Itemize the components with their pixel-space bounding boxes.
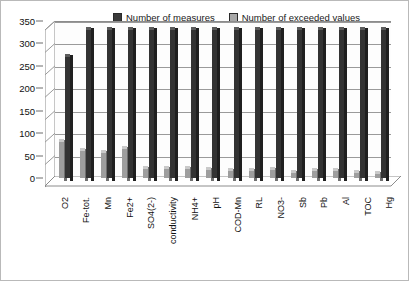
y-axis: 350300250200150100500 <box>1 1 47 281</box>
bar-number-of-measures <box>318 27 323 178</box>
bar-number-of-measures <box>381 27 386 178</box>
bar-group <box>159 21 180 178</box>
bar-group <box>244 21 265 178</box>
bar-exceeded-values <box>354 170 359 178</box>
x-axis-tick-label: SO4(2-) <box>146 197 156 229</box>
y-axis-tick-mark <box>36 21 43 22</box>
x-axis-tick-label: COD-Mn <box>233 197 243 233</box>
bar-exceeded-values <box>185 166 190 178</box>
bar-exceeded-values <box>291 170 296 178</box>
bar-exceeded-values <box>80 148 85 178</box>
bar-number-of-measures <box>107 27 112 178</box>
bar-exceeded-values <box>122 146 127 178</box>
x-axis-tick-label: Pb <box>319 197 329 208</box>
bar-exceeded-values <box>312 168 317 178</box>
bar-number-of-measures <box>170 27 175 178</box>
bar-number-of-measures <box>149 27 154 178</box>
bar-group <box>307 21 328 178</box>
x-axis-tick-label: conductivity <box>168 197 178 244</box>
x-axis-label-cell: Pb <box>314 197 336 281</box>
x-axis-tick-label: NO3- <box>276 197 286 219</box>
y-axis-tick-label: 350 <box>19 16 35 27</box>
bar-number-of-measures <box>255 27 260 178</box>
x-axis-label-cell: conductivity <box>162 197 184 281</box>
y-axis-tick-label: 250 <box>19 60 35 71</box>
y-axis-tick-label: 100 <box>19 128 35 139</box>
y-axis-tick-mark <box>36 43 43 44</box>
y-axis-tick-label: 50 <box>24 150 35 161</box>
bar-group <box>370 21 391 178</box>
x-axis-label-cell: NO3- <box>270 197 292 281</box>
bar-series-group <box>54 21 391 178</box>
bar-number-of-measures <box>191 27 196 178</box>
bar-exceeded-values <box>143 166 148 178</box>
x-axis-labels: O2Fe-tot.MnFe2+SO4(2-)conductivityNH4+pH… <box>54 197 400 281</box>
bar-group <box>96 21 117 178</box>
x-axis-tick-label: TOC <box>363 197 373 216</box>
x-axis-tick-label: Hg <box>384 197 394 209</box>
x-axis-tick-label: Fe2+ <box>125 197 135 218</box>
bar-exceeded-values <box>375 171 380 178</box>
y-axis-tick-label: 150 <box>19 105 35 116</box>
x-axis-tick-label: Al <box>341 197 351 205</box>
x-axis-label-cell: Al <box>335 197 357 281</box>
bar-exceeded-values <box>101 150 106 178</box>
y-axis-tick-mark <box>36 65 43 66</box>
x-axis-label-cell: Sb <box>292 197 314 281</box>
x-axis-tick-label: Fe-tot. <box>81 197 91 223</box>
x-axis-tick-label: O2 <box>60 197 70 209</box>
bar-group <box>138 21 159 178</box>
bar-number-of-measures <box>339 27 344 178</box>
bar-number-of-measures <box>276 27 281 178</box>
bar-chart: Number of measures Number of exceeded va… <box>0 0 409 281</box>
bar-group <box>223 21 244 178</box>
x-axis-label-cell: O2 <box>54 197 76 281</box>
x-axis-label-cell: TOC <box>357 197 379 281</box>
bar-number-of-measures <box>86 27 91 178</box>
x-axis-label-cell: Fe-tot. <box>76 197 98 281</box>
y-axis-tick-mark <box>36 88 43 89</box>
x-axis-label-cell: COD-Mn <box>227 197 249 281</box>
bar-exceeded-values <box>270 167 275 178</box>
x-axis-label-cell: Hg <box>378 197 400 281</box>
bar-number-of-measures <box>360 27 365 178</box>
y-axis-tick-mark <box>36 155 43 156</box>
bar-exceeded-values <box>249 168 254 178</box>
y-axis-tick-mark <box>36 133 43 134</box>
bar-exceeded-values <box>333 168 338 178</box>
bar-number-of-measures <box>234 27 239 178</box>
x-axis-label-cell: RL <box>249 197 271 281</box>
bar-exceeded-values <box>59 139 64 178</box>
x-axis-tick-label: NH4+ <box>190 197 200 220</box>
bar-exceeded-values <box>206 167 211 178</box>
bar-group <box>349 21 370 178</box>
x-axis-tick-label: Sb <box>298 197 308 208</box>
x-axis-label-cell: SO4(2-) <box>141 197 163 281</box>
bar-exceeded-values <box>228 168 233 178</box>
bar-number-of-measures <box>297 27 302 178</box>
x-axis-tick-label: pH <box>211 197 221 209</box>
y-axis-tick-label: 200 <box>19 83 35 94</box>
x-axis-label-cell: Mn <box>97 197 119 281</box>
bar-number-of-measures <box>212 27 217 178</box>
y-axis-tick-mark <box>36 178 43 179</box>
bar-group <box>201 21 222 178</box>
bar-group <box>117 21 138 178</box>
plot-area <box>45 21 391 187</box>
bar-exceeded-values <box>164 166 169 178</box>
x-axis-label-cell: NH4+ <box>184 197 206 281</box>
bar-group <box>75 21 96 178</box>
bar-number-of-measures <box>128 27 133 178</box>
x-axis-label-cell: pH <box>205 197 227 281</box>
x-axis-tick-label: Mn <box>103 197 113 210</box>
x-axis-tick-label: RL <box>254 197 264 209</box>
bar-number-of-measures <box>65 54 70 178</box>
bar-group <box>328 21 349 178</box>
bar-group <box>54 21 75 178</box>
bar-group <box>180 21 201 178</box>
y-axis-tick-label: 300 <box>19 38 35 49</box>
x-axis-label-cell: Fe2+ <box>119 197 141 281</box>
y-axis-tick-mark <box>36 110 43 111</box>
bar-group <box>286 21 307 178</box>
bar-group <box>265 21 286 178</box>
